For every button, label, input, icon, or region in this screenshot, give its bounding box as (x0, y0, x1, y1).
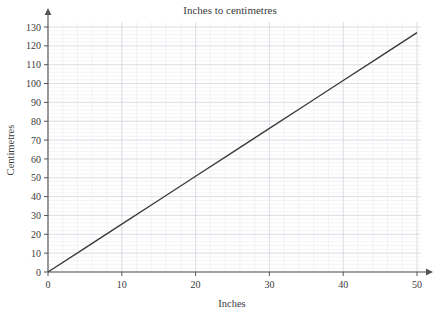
y-tick-label: 60 (31, 154, 41, 165)
x-tick-label: 20 (191, 279, 201, 290)
x-axis-label: Inches (218, 298, 245, 309)
y-tick-label: 100 (26, 78, 41, 89)
x-tick-label: 40 (338, 279, 348, 290)
conversion-graph: 01020304050 0102030405060708090100110120… (0, 0, 440, 317)
y-tick-label: 70 (31, 135, 41, 146)
x-tick-label: 10 (117, 279, 127, 290)
y-tick-label: 110 (26, 59, 41, 70)
y-tick-label: 40 (31, 191, 41, 202)
y-tick-label: 80 (31, 116, 41, 127)
y-tick-label: 0 (36, 267, 41, 278)
y-tick-label: 20 (31, 229, 41, 240)
y-tick-label: 130 (26, 22, 41, 33)
y-tick-label: 50 (31, 172, 41, 183)
x-tick-label: 50 (412, 279, 422, 290)
y-axis-label: Centimetres (5, 125, 16, 176)
x-tick-label: 0 (46, 279, 51, 290)
chart-canvas: 01020304050 0102030405060708090100110120… (0, 0, 440, 317)
chart-title: Inches to centimetres (183, 4, 276, 16)
chart-background (0, 0, 440, 317)
y-tick-label: 120 (26, 40, 41, 51)
x-tick-label: 30 (264, 279, 274, 290)
y-tick-label: 90 (31, 97, 41, 108)
y-tick-label: 10 (31, 248, 41, 259)
y-tick-label: 30 (31, 210, 41, 221)
